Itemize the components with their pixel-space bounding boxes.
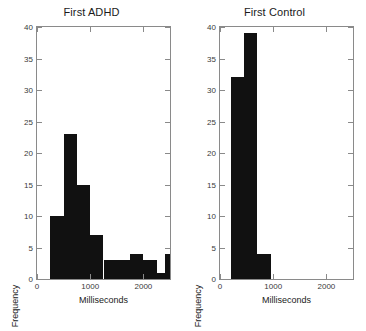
histogram-bar	[77, 185, 90, 280]
y-tick-label: 25	[24, 117, 33, 126]
x-tick-mirror	[326, 27, 327, 32]
y-tick-label: 35	[207, 54, 216, 63]
x-tick	[143, 274, 144, 279]
y-tick-mirror	[165, 59, 170, 60]
y-tick	[37, 216, 42, 217]
x-tick-label: 0	[218, 282, 222, 291]
x-tick-mirror	[37, 27, 38, 32]
y-tick-label: 40	[207, 23, 216, 32]
y-tick	[37, 59, 42, 60]
histogram-bar	[104, 260, 117, 279]
y-tick-label: 20	[207, 149, 216, 158]
y-tick-mirror	[348, 248, 353, 249]
y-tick-label: 5	[29, 243, 33, 252]
histogram-bar	[143, 260, 156, 279]
plot-area-first-adhd: 0510152025303540010002000	[36, 26, 171, 280]
x-tick-mirror	[273, 27, 274, 32]
x-tick	[37, 274, 38, 279]
y-tick-mirror	[165, 185, 170, 186]
y-tick	[37, 279, 42, 280]
y-tick	[220, 153, 225, 154]
y-tick-label: 20	[24, 149, 33, 158]
y-tick-mirror	[165, 248, 170, 249]
histogram-bar	[130, 254, 143, 279]
y-tick-label: 30	[24, 86, 33, 95]
y-tick	[37, 248, 42, 249]
x-axis-title-first-adhd: Milliseconds	[36, 295, 171, 305]
y-tick-mirror	[165, 122, 170, 123]
y-tick	[220, 59, 225, 60]
y-tick-mirror	[348, 216, 353, 217]
y-tick	[220, 216, 225, 217]
y-tick	[37, 153, 42, 154]
bars-first-control	[220, 27, 353, 279]
x-tick-label: 2000	[317, 282, 335, 291]
x-tick	[273, 274, 274, 279]
y-tick-label: 25	[207, 117, 216, 126]
y-tick-mirror	[348, 153, 353, 154]
y-tick-label: 10	[24, 212, 33, 221]
y-tick-label: 0	[29, 275, 33, 284]
y-tick-mirror	[348, 27, 353, 28]
y-tick-mirror	[348, 122, 353, 123]
histogram-bar	[50, 216, 63, 279]
panel-first-adhd: First ADHD 0510152025303540010002000 Fre…	[0, 0, 183, 323]
y-tick-mirror	[165, 216, 170, 217]
histogram-bar	[165, 254, 170, 279]
x-tick-mirror	[220, 27, 221, 32]
y-tick-label: 40	[24, 23, 33, 32]
y-tick	[37, 185, 42, 186]
x-axis-title-first-control: Milliseconds	[219, 295, 354, 305]
x-tick-label: 2000	[134, 282, 152, 291]
y-axis-title-first-adhd: Frequency	[10, 261, 20, 331]
y-axis-title-first-control: Frequency	[193, 261, 203, 331]
x-tick	[220, 274, 221, 279]
histogram-bar	[231, 77, 244, 279]
y-tick-mirror	[165, 27, 170, 28]
y-tick-label: 30	[207, 86, 216, 95]
x-tick-label: 0	[35, 282, 39, 291]
y-tick-mirror	[348, 90, 353, 91]
y-tick	[220, 185, 225, 186]
plot-area-first-control: 0510152025303540010002000	[219, 26, 354, 280]
y-tick-mirror	[348, 185, 353, 186]
panel-first-control: First Control 0510152025303540010002000 …	[183, 0, 366, 323]
y-tick-label: 35	[24, 54, 33, 63]
y-tick	[37, 122, 42, 123]
histogram-bar	[117, 260, 130, 279]
chart-title-first-control: First Control	[183, 6, 366, 18]
histogram-bar	[157, 273, 165, 279]
histogram-bar	[90, 235, 103, 279]
x-tick-label: 1000	[264, 282, 282, 291]
y-tick	[37, 90, 42, 91]
y-tick-label: 10	[207, 212, 216, 221]
y-tick-mirror	[348, 59, 353, 60]
y-tick-mirror	[165, 279, 170, 280]
histogram-bar	[64, 134, 77, 279]
y-tick-label: 15	[207, 180, 216, 189]
x-tick-mirror	[90, 27, 91, 32]
y-tick	[220, 248, 225, 249]
x-tick-mirror	[143, 27, 144, 32]
y-tick-mirror	[165, 153, 170, 154]
y-tick-label: 5	[212, 243, 216, 252]
histogram-bar	[257, 254, 270, 279]
y-tick-mirror	[165, 90, 170, 91]
x-tick	[326, 274, 327, 279]
y-tick-mirror	[348, 279, 353, 280]
y-tick	[220, 122, 225, 123]
y-tick-label: 0	[212, 275, 216, 284]
chart-title-first-adhd: First ADHD	[0, 6, 183, 18]
x-tick-label: 1000	[81, 282, 99, 291]
bars-first-adhd	[37, 27, 170, 279]
y-tick	[220, 90, 225, 91]
y-tick-label: 15	[24, 180, 33, 189]
histogram-bar	[244, 33, 257, 279]
y-tick	[220, 279, 225, 280]
x-tick	[90, 274, 91, 279]
